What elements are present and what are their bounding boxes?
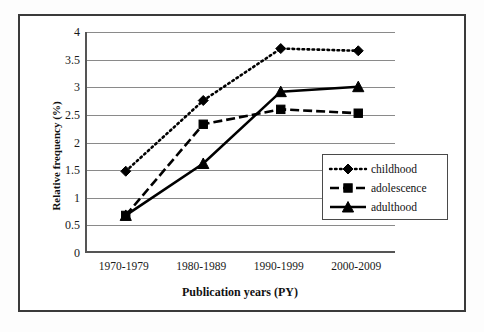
data-point-marker [353,46,363,56]
data-point-marker [354,109,362,117]
y-axis-tick-label: 3.5 [40,54,80,66]
gridline [87,253,395,254]
legend-item-childhood: childhood [328,159,442,178]
legend-item-adolescence: adolescence [328,178,442,197]
legend-label: adolescence [368,182,427,194]
series-line [126,49,359,172]
x-axis-ticks: 1970-19791980-19891990-19992000-2009 [85,260,395,278]
x-axis-tick-label: 1990-1999 [234,260,324,272]
y-axis-tick-label: 3 [40,81,80,93]
y-axis-tick-label: 0.5 [40,219,80,231]
y-axis-tick-label: 4 [40,26,80,38]
x-axis-title: Publication years (PY) [85,285,395,300]
triangle-marker-icon [328,199,368,215]
chart-page: Relative frequency (%) 43.532.521.510.50… [0,0,484,332]
diamond-marker-icon [328,161,368,177]
y-axis-ticks: 43.532.521.510.50 [36,0,80,332]
square-marker-icon [328,180,368,196]
y-axis-tick-label: 1.5 [40,164,80,176]
y-axis-tick-label: 0 [40,247,80,259]
data-point-marker [276,44,286,54]
legend-item-adulthood: adulthood [328,197,442,216]
legend: childhoodadolescenceadulthood [322,154,448,220]
data-point-marker [199,120,207,128]
y-axis-tick-label: 1 [40,192,80,204]
x-axis-tick-label: 2000-2009 [311,260,401,272]
y-axis-tick-label: 2.5 [40,109,80,121]
x-axis-tick-label: 1970-1979 [79,260,169,272]
y-axis-tick-label: 2 [40,137,80,149]
legend-label: childhood [368,163,417,175]
data-point-marker [277,105,285,113]
legend-label: adulthood [368,201,417,213]
x-axis-tick-label: 1980-1989 [156,260,246,272]
